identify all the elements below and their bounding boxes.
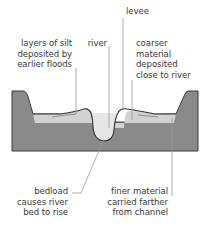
label-bedload: bedload causes river bed to rise: [4, 186, 68, 218]
label-finer-material: finer material carried farther from chan…: [96, 186, 168, 218]
label-coarser-material: coarser material deposited close to rive…: [136, 38, 191, 80]
label-levee: levee: [126, 6, 149, 17]
label-river: river: [84, 38, 107, 49]
label-silt-layers: layers of silt deposited by earlier floo…: [4, 38, 72, 70]
